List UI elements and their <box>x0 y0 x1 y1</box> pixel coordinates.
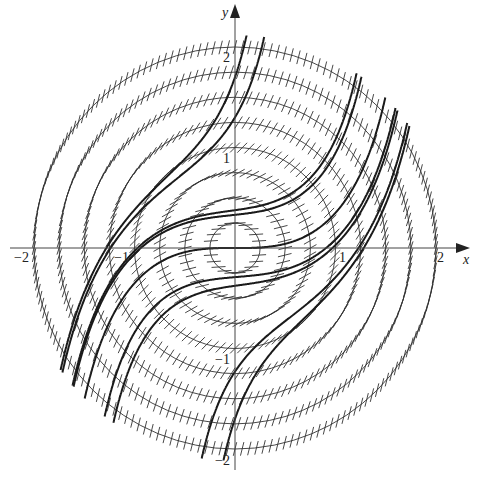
slope-mark <box>102 359 106 372</box>
slope-mark <box>176 102 182 115</box>
slope-mark <box>156 427 159 441</box>
slope-mark <box>419 164 422 178</box>
slope-mark <box>118 340 124 353</box>
slope-mark <box>197 388 203 401</box>
slope-mark <box>331 95 335 108</box>
slope-mark <box>173 407 177 420</box>
slope-mark <box>119 76 122 90</box>
slope-mark <box>98 354 102 367</box>
slope-mark <box>254 316 266 323</box>
slope-mark <box>88 199 94 212</box>
slope-mark <box>195 284 209 287</box>
slope-mark <box>299 273 311 280</box>
slope-mark <box>353 113 357 126</box>
slope-mark <box>114 335 120 348</box>
slope-mark <box>102 393 105 407</box>
slope-mark <box>370 94 373 108</box>
slope-mark <box>199 364 207 376</box>
slope-mark <box>81 110 84 124</box>
slope-mark <box>256 119 264 131</box>
slope-mark <box>385 110 388 124</box>
slope-mark <box>319 88 323 101</box>
slope-mark <box>358 364 362 377</box>
slope-mark <box>118 108 122 121</box>
slope-mark <box>113 284 121 296</box>
slope-mark <box>182 331 192 341</box>
slope-mark <box>301 223 313 230</box>
slope-mark <box>301 376 307 389</box>
slope-mark <box>318 195 328 205</box>
slope-mark <box>270 362 278 374</box>
slope-mark <box>186 125 194 137</box>
slope-mark <box>118 374 122 387</box>
slope-mark <box>186 359 194 371</box>
slope-mark <box>377 284 383 297</box>
slope-mark <box>113 80 116 94</box>
slope-mark <box>398 356 401 370</box>
slope-mark <box>151 368 157 381</box>
slope-mark <box>312 398 316 411</box>
slope-mark <box>96 94 99 108</box>
slope-mark <box>199 121 207 133</box>
slope-mark <box>315 189 325 199</box>
x-tick-label-2: 2 <box>437 250 444 265</box>
slope-mark <box>62 199 66 212</box>
slope-mark <box>336 414 339 428</box>
slope-mark <box>212 267 226 268</box>
direction-field-plot: x y −2 −1 1 2 2 1 −1 −2 <box>0 0 481 488</box>
slope-mark <box>204 255 218 256</box>
slope-mark <box>296 210 308 217</box>
slope-mark <box>306 81 310 94</box>
slope-mark <box>81 373 84 387</box>
slope-mark <box>283 128 291 140</box>
slope-mark <box>209 341 219 351</box>
slope-mark <box>266 213 280 216</box>
slope-mark <box>273 306 285 313</box>
slope-mark <box>328 222 338 232</box>
slope-mark <box>195 337 205 347</box>
slope-mark <box>238 225 252 226</box>
slope-mark <box>296 279 308 286</box>
slope-mark <box>331 356 337 369</box>
slope-mark <box>157 266 169 273</box>
slope-mark <box>173 76 177 89</box>
slope-mark <box>363 359 367 372</box>
slope-mark <box>375 291 381 304</box>
slope-mark <box>290 353 298 365</box>
slope-mark <box>325 391 329 404</box>
slope-mark <box>278 155 288 165</box>
slope-mark <box>373 348 377 361</box>
slope-mark <box>283 356 291 368</box>
slope-mark <box>129 383 133 396</box>
slope-mark <box>326 271 336 281</box>
slope-mark <box>312 84 316 97</box>
slope-mark <box>251 145 261 155</box>
slope-mark <box>281 384 287 397</box>
slope-mark <box>102 123 106 136</box>
slope-mark <box>116 193 124 205</box>
slope-mark <box>344 298 352 310</box>
slope-mark <box>244 267 258 268</box>
y-tick-label-2: 2 <box>223 50 230 65</box>
slope-mark <box>286 409 290 422</box>
slope-mark <box>207 261 221 262</box>
slope-mark <box>377 140 381 153</box>
slope-mark <box>274 225 288 228</box>
slope-mark <box>212 229 226 230</box>
slope-mark <box>60 139 63 153</box>
slope-mark <box>160 81 164 94</box>
slope-mark <box>296 350 304 362</box>
slope-mark <box>336 351 342 364</box>
slope-mark <box>91 383 94 397</box>
slope-mark <box>125 410 128 424</box>
slope-mark <box>157 111 163 124</box>
slope-mark <box>159 273 171 280</box>
slope-mark <box>190 386 196 399</box>
slope-mark <box>123 104 127 117</box>
slope-mark <box>398 127 401 141</box>
slope-mark <box>188 334 198 344</box>
slope-mark <box>132 222 142 232</box>
slope-mark <box>125 72 128 86</box>
slope-mark <box>204 240 218 241</box>
slope-mark <box>57 145 60 159</box>
